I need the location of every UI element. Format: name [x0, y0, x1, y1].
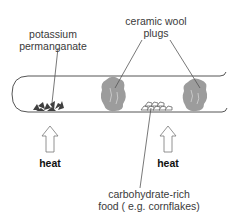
potassium-permanganate-label: potassium permanganate [14, 28, 92, 52]
heat-arrow-right [160, 126, 176, 152]
heat-label-left: heat [35, 157, 65, 169]
label-line-2: permanganate [14, 40, 92, 52]
ceramic-wool-label: ceramic wool plugs [116, 15, 196, 39]
label-line-2: food ( e.g. cornflakes) [82, 200, 216, 212]
heat-label-right: heat [153, 157, 183, 169]
label-line-1: ceramic wool [116, 15, 196, 27]
label-line-1: potassium [14, 28, 92, 40]
ceramic-wool-plug-left [101, 77, 126, 111]
label-line-2: plugs [116, 27, 196, 39]
label-line-1: carbohydrate-rich [82, 188, 216, 200]
cornflakes [141, 102, 172, 110]
heat-arrow-left [42, 126, 58, 152]
carbohydrate-label: carbohydrate-rich food ( e.g. cornflakes… [82, 188, 216, 212]
ceramic-wool-plug-right [183, 78, 207, 111]
potassium-permanganate-crystals [33, 101, 64, 111]
